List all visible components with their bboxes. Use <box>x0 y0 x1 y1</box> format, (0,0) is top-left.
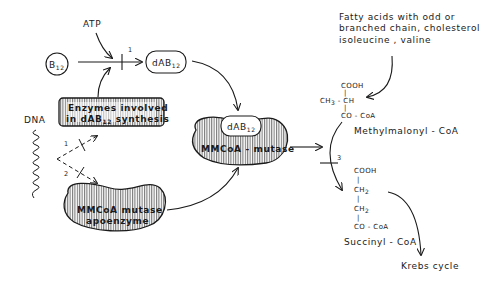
svg-text:|: | <box>357 176 360 184</box>
pathway-diagram: ATP B12 1 dAB12 Enzymes involved in dAB1… <box>0 0 488 283</box>
svg-text:in dAB12 synthesis: in dAB12 synthesis <box>66 114 169 125</box>
svg-text:Fatty acids with odd or: Fatty acids with odd or <box>339 12 455 22</box>
methylmalonyl-coa: COOH | CH3 - CH | COOH CO - CoA Methylma… <box>320 82 459 136</box>
mmcoa-mutase-node: dAB12 MMCoA - mutase <box>193 116 295 165</box>
atp-label: ATP <box>83 19 101 29</box>
svg-text:COOH: COOH <box>354 167 377 175</box>
step1-number: 1 <box>128 46 132 54</box>
precursor-sources: Fatty acids with odd or branched chain, … <box>339 12 480 45</box>
svg-text:CO - CoA: CO - CoA <box>354 223 389 231</box>
enzymes-arrow <box>98 68 110 97</box>
svg-text:|: | <box>344 104 347 112</box>
apoenzyme-to-mutase-arrow <box>167 168 238 210</box>
svg-text:CO - CoA: CO - CoA <box>341 112 376 120</box>
dab12-node: dAB12 <box>146 51 186 73</box>
svg-text:CH2: CH2 <box>354 205 369 214</box>
svg-text:branched chain, cholesterol: branched chain, cholesterol <box>339 23 480 33</box>
svg-text:CH2: CH2 <box>354 186 369 195</box>
svg-text:Enzymes involved: Enzymes involved <box>68 103 168 113</box>
svg-text:|: | <box>357 214 360 222</box>
dab12-to-mutase-arrow <box>192 61 238 110</box>
svg-text:isoleucine , valine: isoleucine , valine <box>339 35 431 45</box>
enzymes-node: Enzymes involved in dAB12 synthesis <box>59 98 169 126</box>
svg-text:2: 2 <box>64 170 68 178</box>
atp-arrow <box>96 33 112 58</box>
dna-label: DNA <box>24 115 46 125</box>
svg-text:MMCoA - mutase: MMCoA - mutase <box>201 144 295 154</box>
krebs-cycle-label: Krebs cycle <box>401 261 459 271</box>
sources-arrow <box>367 56 392 97</box>
svg-text:CH3 - CH: CH3 - CH <box>320 97 354 106</box>
svg-text:|: | <box>344 89 347 97</box>
svg-text:|: | <box>357 195 360 203</box>
b12-node: B12 <box>46 53 68 75</box>
dna-coil-icon <box>32 130 39 198</box>
apoenzyme-node: MMCoA mutase apoenzyme <box>64 183 165 231</box>
dna-expression-arrows: 1 2 <box>57 136 97 183</box>
step3-number: 3 <box>337 154 341 162</box>
svg-text:Succinyl - CoA: Succinyl - CoA <box>344 237 417 247</box>
svg-text:MMCoA mutase: MMCoA mutase <box>77 205 163 215</box>
succinyl-coa: COOH | CH2 | CH2 | CO - CoA Succinyl - C… <box>344 167 417 247</box>
svg-text:Methylmalonyl - CoA: Methylmalonyl - CoA <box>354 126 459 136</box>
svg-text:apoenzyme: apoenzyme <box>86 216 149 226</box>
svg-text:1: 1 <box>64 140 68 148</box>
